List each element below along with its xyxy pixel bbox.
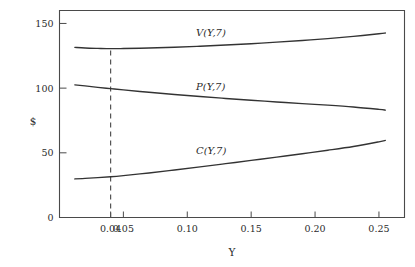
series-curve xyxy=(75,33,386,49)
y-tick-label: 0 xyxy=(47,212,53,223)
x-tick-label: 0.20 xyxy=(304,223,325,234)
x-tick-label: 0.15 xyxy=(241,223,262,234)
x-axis-ticks: 0.040.050.100.150.200.25 xyxy=(100,212,389,234)
plot-frame xyxy=(60,11,405,218)
series-label: P(Y,7) xyxy=(195,81,225,92)
y-tick-label: 50 xyxy=(41,147,53,158)
y-tick-label: 150 xyxy=(35,18,53,29)
y-axis-title: $ xyxy=(30,115,37,127)
x-tick-label: 0.05 xyxy=(113,223,134,234)
series-label: V(Y,7) xyxy=(196,27,226,38)
y-axis-ticks: 050100150 xyxy=(35,18,66,223)
y-tick-label: 100 xyxy=(35,83,53,94)
line-chart-plot: 050100150 0.040.050.100.150.200.25 V(Y,7… xyxy=(0,0,415,267)
x-tick-label: 0.10 xyxy=(177,223,198,234)
series-curve xyxy=(75,85,386,110)
series-label: C(Y,7) xyxy=(196,145,226,156)
x-tick-label: 0.25 xyxy=(368,223,389,234)
series-curve xyxy=(75,140,386,179)
x-axis-title: Y xyxy=(228,246,237,258)
chart-container: 050100150 0.040.050.100.150.200.25 V(Y,7… xyxy=(0,0,415,267)
data-series-layer xyxy=(75,33,386,179)
